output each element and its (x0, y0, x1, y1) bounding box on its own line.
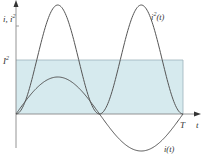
x-axis-label: t (196, 120, 199, 130)
y-axis-label: i, i2 (3, 13, 16, 24)
mean-area-shading (16, 60, 183, 114)
period-label: T (180, 120, 186, 130)
mean-level-label: I2 (2, 55, 9, 66)
i-curve-label: i(t) (164, 144, 175, 154)
rms-diagram: i, i2 I2 i2(t) i(t) T t (0, 0, 207, 156)
x-axis-arrow-icon (194, 112, 201, 117)
i-squared-curve-label: i2(t) (151, 11, 165, 22)
y-axis-arrow-icon (14, 0, 19, 7)
